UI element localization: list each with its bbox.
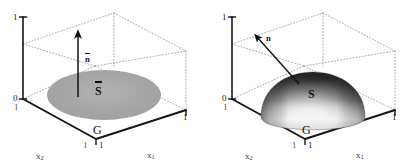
surface-label: S bbox=[95, 85, 102, 97]
two-panel-figure: 1 0 1 1 1 1 x2 x1 S n G bbox=[0, 0, 418, 168]
x2-axis-label: x2 bbox=[36, 152, 44, 162]
base-front-tick: 1 bbox=[308, 141, 313, 150]
z-axis bbox=[229, 17, 236, 99]
x2-axis-tick: 1 bbox=[83, 141, 88, 150]
panel-right-stage: 1 0 1 1 1 1 x2 x1 S n G bbox=[209, 0, 418, 168]
x2-axis-tick: 1 bbox=[292, 141, 297, 150]
panel-left: 1 0 1 1 1 1 x2 x1 S n G bbox=[0, 0, 209, 168]
z-axis-top-tick: 1 bbox=[13, 13, 18, 22]
base-region-label: G bbox=[93, 124, 102, 136]
base-region-label: G bbox=[302, 124, 311, 136]
origin-below-tick: 1 bbox=[223, 103, 228, 112]
flat-disk-surface bbox=[47, 70, 161, 120]
z-axis-top-tick: 1 bbox=[222, 13, 227, 22]
panel-left-scene bbox=[0, 0, 209, 168]
x2-axis-label: x2 bbox=[245, 152, 253, 162]
z-axis bbox=[20, 17, 27, 99]
base-front-tick: 1 bbox=[99, 141, 104, 150]
normal-vector-arrow bbox=[257, 37, 299, 84]
x1-axis-tick: 1 bbox=[183, 113, 188, 122]
panel-right: 1 0 1 1 1 1 x2 x1 S n G bbox=[209, 0, 418, 168]
x1-axis-tick: 1 bbox=[392, 113, 397, 122]
x1-axis-label: x1 bbox=[147, 151, 155, 161]
panel-right-scene bbox=[209, 0, 418, 168]
x1-axis-label: x1 bbox=[356, 151, 364, 161]
normal-vector-label: n bbox=[85, 55, 90, 64]
surface-label: S bbox=[308, 88, 315, 100]
panel-left-stage: 1 0 1 1 1 1 x2 x1 S n G bbox=[0, 0, 209, 168]
normal-vector-label: n bbox=[266, 34, 271, 43]
origin-below-tick: 1 bbox=[14, 103, 19, 112]
